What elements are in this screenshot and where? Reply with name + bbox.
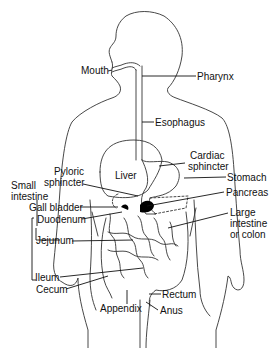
label-liver: Liver [115, 170, 137, 181]
duodenum-fill [121, 204, 128, 210]
label-gall-bladder: Gall bladder [29, 202, 83, 213]
label-small-intestine-2: intestine [11, 191, 48, 202]
label-esophagus: Esophagus [155, 117, 205, 128]
label-large-intestine-1: Large [230, 207, 256, 218]
label-cardiac-sphincter-1: Cardiac [190, 150, 224, 161]
label-large-intestine-3: or colon [230, 229, 266, 240]
label-appendix: Appendix [100, 303, 142, 314]
label-cardiac-sphincter-2: sphincter [188, 161, 229, 172]
label-mouth: Mouth [81, 65, 109, 76]
label-jejunum: Jejunum [36, 235, 74, 246]
label-cecum: Cecum [36, 284, 68, 295]
label-large-intestine-2: intestine [230, 218, 267, 229]
label-duodenum: Duodenum [37, 214, 86, 225]
label-pyloric-sphincter-2: sphincter [44, 177, 85, 188]
label-small-intestine-1: Small [11, 180, 36, 191]
label-pancreas: Pancreas [226, 187, 268, 198]
label-stomach: Stomach [227, 172, 266, 183]
label-rectum: Rectum [162, 289, 196, 300]
label-ileum: Ileum [35, 272, 59, 283]
label-pharynx: Pharynx [197, 71, 234, 82]
label-pyloric-sphincter-1: Pyloric [54, 166, 84, 177]
label-anus: Anus [160, 305, 183, 316]
liver-shape [100, 140, 162, 198]
